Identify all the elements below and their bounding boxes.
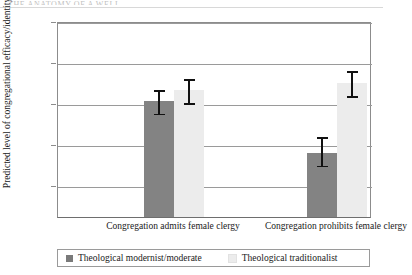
- error-bar: [153, 90, 165, 115]
- error-bar: [346, 71, 358, 97]
- header-rule: [0, 7, 383, 8]
- error-bar-stem: [351, 71, 353, 97]
- error-bar-cap-bottom: [184, 103, 195, 105]
- plot-area: [57, 22, 371, 218]
- y-tick-mark: [51, 145, 56, 146]
- error-bar-cap-bottom: [317, 166, 328, 168]
- bar: [174, 90, 204, 217]
- legend-swatch-icon-traditionalist: [228, 254, 237, 263]
- y-tick-mark: [51, 186, 56, 187]
- x-tick-label: Congregation admits female clergy: [93, 221, 253, 231]
- error-bar: [183, 79, 195, 105]
- x-tick-label: Congregation prohibits female clergy: [256, 221, 412, 231]
- error-bar-cap-bottom: [347, 96, 358, 98]
- legend: Theological modernist/moderate Theologic…: [57, 249, 370, 267]
- gridline: [58, 64, 372, 65]
- gridline: [58, 23, 372, 24]
- gridline: [58, 105, 372, 106]
- error-bar-stem: [321, 137, 323, 167]
- y-tick-mark: [51, 104, 56, 105]
- error-bar: [316, 137, 328, 167]
- y-axis-label: Predicted level of congregational effica…: [2, 0, 12, 218]
- error-bar-stem: [158, 90, 160, 115]
- legend-item-traditionalist: Theological traditionalist: [228, 253, 338, 263]
- legend-label-traditionalist: Theological traditionalist: [242, 253, 338, 263]
- bar: [337, 83, 367, 217]
- y-tick-mark: [51, 22, 56, 23]
- running-head: THE ANATOMY OF A WELL: [8, 0, 258, 5]
- legend-item-modernist: Theological modernist/moderate: [66, 253, 202, 263]
- error-bar-cap-bottom: [154, 114, 165, 116]
- y-tick-mark: [51, 63, 56, 64]
- error-bar-stem: [188, 79, 190, 105]
- legend-swatch-icon-modernist: [66, 255, 73, 262]
- bar: [144, 101, 174, 217]
- legend-label-modernist: Theological modernist/moderate: [78, 253, 202, 263]
